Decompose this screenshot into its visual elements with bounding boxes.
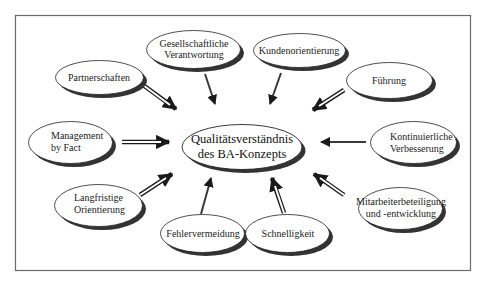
node-label: Führung [372, 75, 406, 86]
node-label-line1: Gesellschaftliche [160, 38, 229, 49]
node-label-line2: Verantwortung [164, 49, 223, 60]
node-label-line2: Verbesserung [390, 143, 444, 154]
node-label: Fehlervermeidung [166, 228, 239, 239]
node-label-line2: by Fact [51, 142, 81, 153]
node-label: Kundenorientierung [259, 45, 340, 56]
center-label-line2: des BA-Konzepts [198, 147, 287, 161]
node-label-line1: Langfristige [74, 192, 123, 203]
node-label-line1: Mitarbeiterbeteiligung [356, 196, 446, 207]
node-label-line2: Orientierung [74, 204, 125, 215]
node-label: Partnerschaften [68, 72, 130, 83]
node-label-line1: Management [51, 130, 103, 141]
concept-diagram: Qualitätsverständnis des BA-Konzepts Ges… [0, 0, 486, 281]
node-label-line1: Kontinuierliche [390, 131, 453, 142]
node-label: Schnelligkeit [262, 228, 315, 239]
center-label-line1: Qualitätsverständnis [191, 132, 293, 146]
node-label-line2: und -entwicklung [366, 208, 436, 219]
